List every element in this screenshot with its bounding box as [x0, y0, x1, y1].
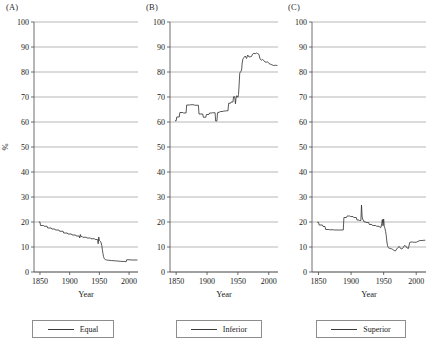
y-tick-label: 10: [157, 243, 165, 252]
y-tick-label: 10: [21, 243, 29, 252]
panel-a-plot: 01020304050607080901001850190019502000Ye…: [0, 14, 144, 314]
y-tick-label: 80: [299, 68, 307, 77]
panel-b-legend: Inferior: [176, 320, 262, 338]
x-axis-title: Year: [361, 289, 377, 299]
y-tick-label: 50: [21, 143, 29, 152]
y-tick-label: 20: [21, 218, 29, 227]
y-tick-label: 80: [21, 68, 29, 77]
y-tick-label: 100: [17, 18, 29, 27]
panel-b: (B) 010203040506070809010018501900195020…: [140, 0, 284, 344]
y-tick-label: 100: [295, 18, 307, 27]
y-tick-label: 10: [299, 243, 307, 252]
x-axis-title: Year: [78, 289, 94, 299]
y-tick-label: 60: [299, 118, 307, 127]
y-tick-label: 90: [299, 43, 307, 52]
y-tick-label: 30: [21, 193, 29, 202]
figure-three-panel-line-charts: (A) 010203040506070809010018501900195020…: [0, 0, 432, 344]
x-tick-label: 1900: [62, 277, 78, 286]
y-tick-label: 0: [25, 268, 29, 277]
series-line-superior: [317, 205, 425, 251]
series-line-inferior: [175, 53, 277, 121]
x-tick-label: 1850: [32, 277, 48, 286]
legend-line-swatch-icon: [191, 329, 217, 330]
panel-b-label: (B): [146, 2, 158, 12]
legend-line-swatch-icon: [48, 329, 74, 330]
y-tick-label: 0: [161, 268, 165, 277]
y-tick-label: 70: [299, 93, 307, 102]
panel-c-legend: Superior: [316, 320, 406, 338]
x-tick-label: 1950: [230, 277, 246, 286]
y-tick-label: 60: [21, 118, 29, 127]
y-tick-label: 20: [157, 218, 165, 227]
y-tick-label: 30: [157, 193, 165, 202]
x-tick-label: 2000: [408, 277, 424, 286]
panel-a-legend: Equal: [32, 320, 114, 338]
y-axis-title: %: [0, 143, 10, 150]
x-tick-label: 1850: [311, 277, 327, 286]
x-axis-title: Year: [216, 289, 232, 299]
x-tick-label: 2000: [261, 277, 277, 286]
panel-a-legend-label: Equal: [80, 325, 99, 334]
legend-line-swatch-icon: [331, 329, 357, 330]
panel-b-plot: 01020304050607080901001850190019502000Ye…: [140, 14, 284, 314]
y-tick-label: 0: [303, 268, 307, 277]
y-tick-label: 40: [21, 168, 29, 177]
panel-b-legend-label: Inferior: [223, 325, 247, 334]
x-tick-label: 1850: [168, 277, 184, 286]
y-tick-label: 70: [157, 93, 165, 102]
x-tick-label: 1950: [91, 277, 107, 286]
y-tick-label: 70: [21, 93, 29, 102]
y-tick-label: 40: [299, 168, 307, 177]
y-tick-label: 20: [299, 218, 307, 227]
panel-a: (A) 010203040506070809010018501900195020…: [0, 0, 144, 344]
y-tick-label: 40: [157, 168, 165, 177]
y-tick-label: 50: [157, 143, 165, 152]
x-tick-label: 1950: [376, 277, 392, 286]
x-tick-label: 1900: [343, 277, 359, 286]
y-tick-label: 80: [157, 68, 165, 77]
y-tick-label: 90: [21, 43, 29, 52]
panel-c-legend-label: Superior: [363, 325, 391, 334]
x-tick-label: 1900: [199, 277, 215, 286]
y-tick-label: 60: [157, 118, 165, 127]
x-tick-label: 2000: [121, 277, 137, 286]
series-line-equal: [39, 222, 138, 262]
panel-c: (C) 010203040506070809010018501900195020…: [282, 0, 426, 344]
panel-c-label: (C): [288, 2, 300, 12]
y-tick-label: 30: [299, 193, 307, 202]
panel-c-plot: 01020304050607080901001850190019502000Ye…: [282, 14, 432, 314]
y-tick-label: 50: [299, 143, 307, 152]
y-tick-label: 90: [157, 43, 165, 52]
panel-a-label: (A): [6, 2, 18, 12]
y-tick-label: 100: [153, 18, 165, 27]
